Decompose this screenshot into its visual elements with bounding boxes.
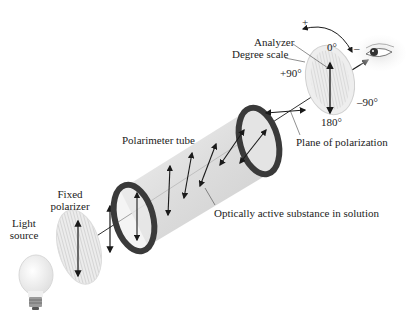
label-rotation-plus: + — [302, 16, 308, 28]
label-analyzer: Analyzer — [254, 36, 294, 48]
label-fixed-polarizer: Fixed polarizer — [48, 188, 92, 212]
leader-plane — [290, 110, 300, 135]
label-deg-plus90: +90° — [280, 67, 302, 79]
rotated-polarization-arrow — [266, 110, 305, 113]
label-rotation-minus: – — [354, 42, 360, 54]
label-deg-0: 0° — [327, 41, 337, 53]
light-bulb-icon — [19, 255, 53, 310]
fixed-polarizer — [49, 205, 109, 289]
label-plane-of-polarization: Plane of polarization — [296, 136, 388, 148]
label-polarimeter-tube: Polarimeter tube — [122, 134, 195, 146]
label-deg-180: 180° — [321, 116, 342, 128]
polarimeter-tube — [107, 103, 286, 256]
label-optically-active-substance: Optically active substance in solution — [214, 207, 379, 219]
eye-icon — [354, 35, 406, 71]
label-degree-scale: Degree scale — [232, 48, 289, 60]
label-light-source: Light source — [6, 217, 42, 241]
polarimeter-diagram — [0, 0, 412, 320]
label-deg-minus90: –90° — [357, 96, 378, 108]
